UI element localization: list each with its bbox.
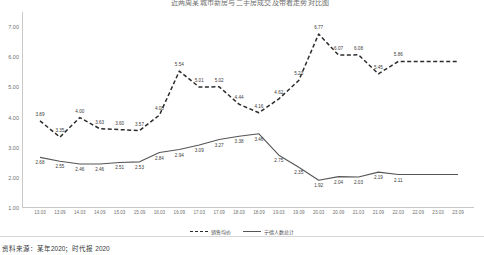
x-tick-label: 19.03 [273,210,285,215]
chart-title: 近两周某城市新房与二手房成交及带看走势对比图 [60,0,440,7]
x-tick-label: 14.09 [94,210,106,215]
data-label: 2.46 [75,167,84,172]
plot-area: 1.002.003.004.005.006.007.00 3.893.354.0… [22,12,474,208]
x-tick-label: 16.03 [154,210,166,215]
data-label: 3.46 [254,137,263,142]
data-label: 5.02 [215,78,224,83]
x-tick-label: 20.03 [313,210,325,215]
data-label: 4.44 [235,95,244,100]
data-label: 3.63 [95,120,104,125]
data-label: 2.46 [95,167,104,172]
data-label: 6.77 [314,25,323,30]
data-label: 5.86 [394,52,403,57]
data-label: 3.27 [215,143,224,148]
data-label: 5.54 [175,62,184,67]
data-label: 2.19 [374,175,383,180]
series-lines [22,12,474,208]
x-tick-label: 23.09 [452,210,464,215]
x-tick-label: 17.03 [193,210,205,215]
data-label: 2.94 [175,153,184,158]
legend-swatch-solid [243,231,261,232]
data-label: 3.09 [195,148,204,153]
legend-label: 销售均价 [211,228,231,235]
y-tick-label: 1.00 [8,205,19,211]
data-label: 6.07 [334,46,343,51]
y-tick-label: 7.00 [8,24,19,30]
data-label: 3.60 [115,121,124,126]
x-tick-label: 16.09 [174,210,186,215]
data-label: 2.84 [155,156,164,161]
data-label: 2.68 [36,160,45,165]
x-tick-label: 13.03 [34,210,46,215]
x-tick-label: 18.09 [253,210,265,215]
data-label: 2.55 [55,164,64,169]
caption-divider [0,236,484,237]
x-tick-label: 15.03 [114,210,126,215]
x-tick-label: 21.09 [373,210,385,215]
data-label: 5.23 [294,71,303,76]
data-label: 2.75 [274,158,283,163]
data-label: 2.03 [354,180,363,185]
data-label: 5.01 [195,78,204,83]
chart-legend: 销售均价宁德人数总计 [0,228,484,235]
source-caption: 资料来源：某年2020；时代报 2020 [2,243,110,253]
x-tick-label: 22.03 [393,210,405,215]
data-label: 4.08 [155,106,164,111]
x-tick-label: 20.09 [333,210,345,215]
x-tick-label: 21.03 [353,210,365,215]
data-label: 2.04 [334,180,343,185]
x-tick-label: 17.09 [213,210,225,215]
y-tick-label: 5.00 [8,84,19,90]
legend-swatch-dashed [190,231,208,232]
x-tick-label: 22.09 [412,210,424,215]
x-tick-labels: 13.0313.0914.0314.0915.0315.0916.0316.09… [22,210,474,220]
x-tick-label: 18.03 [233,210,245,215]
data-label: 3.35 [55,128,64,133]
data-label: 6.08 [354,46,363,51]
data-label: 2.51 [115,165,124,170]
x-tick-label: 14.03 [74,210,86,215]
y-tick-label: 4.00 [8,115,19,121]
data-label: 1.92 [314,183,323,188]
data-label: 3.38 [235,139,244,144]
x-tick-label: 13.09 [54,210,66,215]
data-label: 3.57 [135,122,144,127]
chart-root: 近两周某城市新房与二手房成交及带看走势对比图 1.002.003.004.005… [0,0,484,255]
series-line [40,134,458,180]
legend-item[interactable]: 宁德人数总计 [243,228,294,235]
data-label: 2.11 [394,178,403,183]
data-label: 5.45 [374,65,383,70]
y-tick-label: 3.00 [8,145,19,151]
legend-item[interactable]: 销售均价 [190,228,231,235]
x-tick-label: 19.09 [293,210,305,215]
data-label: 2.53 [135,165,144,170]
y-tick-label: 2.00 [8,175,19,181]
data-label: 2.35 [294,170,303,175]
y-tick-label: 6.00 [8,54,19,60]
x-tick-label: 15.09 [134,210,146,215]
data-label: 4.16 [254,104,263,109]
legend-label: 宁德人数总计 [264,228,294,235]
data-label: 4.00 [75,109,84,114]
data-label: 4.62 [274,90,283,95]
data-label: 3.89 [36,112,45,117]
x-tick-label: 23.03 [432,210,444,215]
